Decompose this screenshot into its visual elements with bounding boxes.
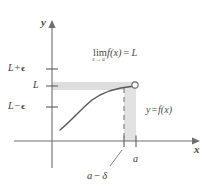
y-tick-label-L-plus-epsilon-offset: ϵ: [21, 63, 25, 73]
open-circle-point: [132, 82, 138, 88]
y-tick-label-L-plus-epsilon: L+ϵ: [8, 63, 25, 73]
curve-label: y=f(x): [146, 100, 172, 116]
function-curve: [60, 86, 133, 130]
diagram-canvas: [0, 0, 210, 188]
x-axis-label: x: [194, 144, 200, 155]
leader-line-a-minus-delta: [110, 150, 122, 166]
y-axis-arrowhead: [48, 20, 55, 28]
y-tick-label-L-plus-epsilon-base: L: [8, 62, 14, 73]
a-minus-delta-delta: δ: [102, 170, 107, 181]
limit-function: f(x): [107, 47, 122, 58]
y-axis-label: y: [41, 17, 46, 28]
x-tick-label-a: a: [133, 149, 138, 165]
limit-operator: lim x → a⁻: [93, 48, 107, 59]
y-tick-label-L: L: [33, 80, 39, 90]
x-tick-label-a-minus-delta: a−δ: [87, 166, 107, 182]
curve-label-equals: =: [150, 104, 158, 115]
curve-label-function: f(x): [158, 104, 172, 115]
a-minus-delta-operator: −: [92, 170, 102, 181]
limit-expression: lim x → a⁻ f(x)=L: [93, 43, 137, 59]
limit-diagram-figure: y x L+ϵ L L−ϵ lim x → a⁻ f(x)=L y=f(x) a…: [0, 0, 210, 188]
y-tick-label-L-minus-epsilon-offset: ϵ: [21, 101, 25, 111]
limit-subscript: x → a⁻: [92, 57, 108, 62]
vertical-shading-band: [124, 86, 136, 141]
y-tick-label-L-minus-epsilon: L−ϵ: [8, 101, 25, 111]
limit-value: L: [132, 47, 138, 58]
x-tick-label-a-text: a: [133, 153, 138, 164]
y-tick-label-L-minus-epsilon-base: L: [8, 100, 14, 111]
limit-equals-sign: =: [122, 47, 132, 58]
